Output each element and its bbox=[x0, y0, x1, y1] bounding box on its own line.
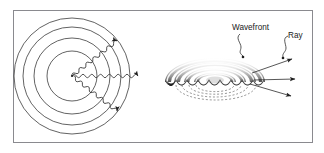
ray-label: Ray bbox=[288, 31, 303, 40]
mound-edge-fade bbox=[153, 42, 277, 102]
perspective-wave-ridges bbox=[153, 42, 277, 102]
figure-container: Wavefront Ray bbox=[0, 0, 324, 153]
wavefront-ray-diagram: Wavefront Ray bbox=[0, 0, 324, 153]
ray-leader-dot bbox=[282, 57, 285, 60]
wavefront-leader-dot bbox=[242, 56, 245, 59]
wavefront-label: Wavefront bbox=[232, 23, 270, 32]
